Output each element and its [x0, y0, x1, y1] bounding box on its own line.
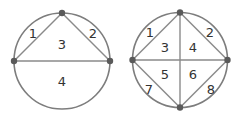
circle-division-diagrams: 1 2 3 4 1 2 3 4 5 6 7 8 — [0, 0, 247, 130]
region-label: 3 — [161, 40, 169, 55]
region-label: 1 — [29, 26, 37, 41]
region-label: 2 — [206, 25, 214, 40]
region-label: 7 — [145, 82, 153, 97]
region-label: 5 — [161, 67, 169, 82]
region-label: 4 — [58, 74, 66, 89]
right-point-right — [224, 57, 230, 63]
region-label: 2 — [89, 26, 97, 41]
region-label: 6 — [189, 67, 197, 82]
region-label: 4 — [189, 40, 197, 55]
left-point-top — [59, 10, 65, 16]
region-label: 8 — [207, 82, 215, 97]
left-point-left — [11, 58, 17, 64]
right-circle-diagram: 1 2 3 4 5 6 7 8 — [129, 9, 230, 110]
region-label: 1 — [146, 25, 154, 40]
left-point-right — [107, 58, 113, 64]
right-point-top — [177, 9, 183, 15]
right-point-left — [129, 57, 135, 63]
region-label: 3 — [58, 37, 66, 52]
right-point-bottom — [177, 104, 183, 110]
left-circle-diagram: 1 2 3 4 — [11, 10, 113, 109]
